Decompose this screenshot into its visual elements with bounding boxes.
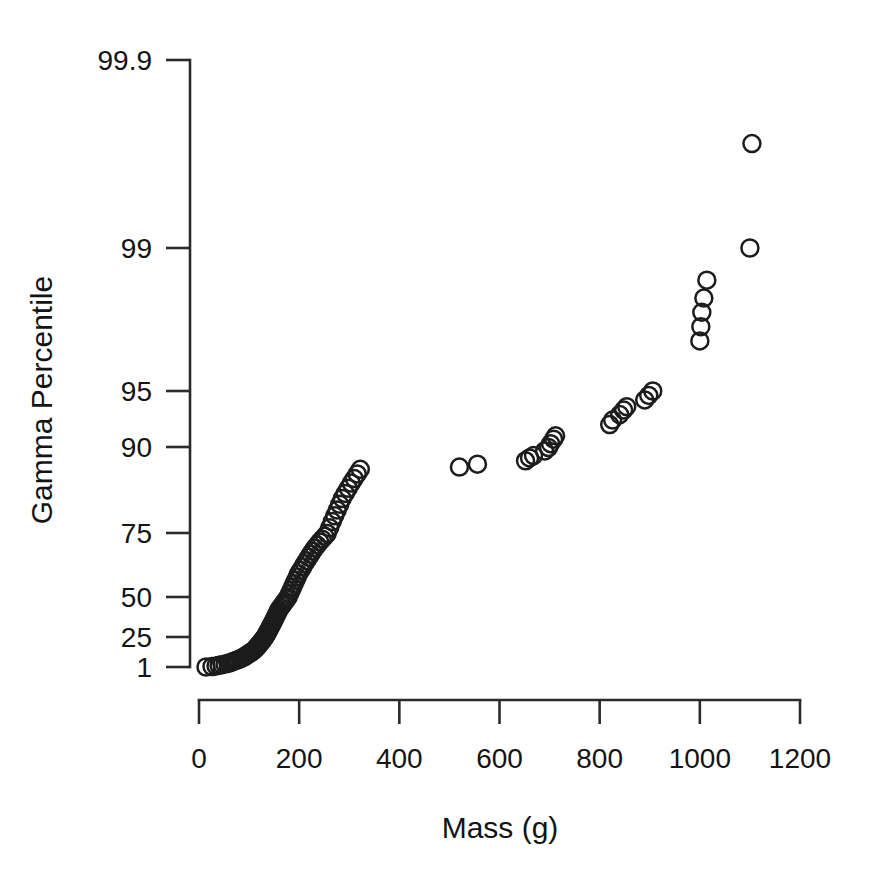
y-axis: 125507590959999.9: [98, 45, 191, 683]
x-axis-tick-label: 600: [476, 743, 523, 774]
y-axis-tick-label: 50: [121, 582, 152, 613]
y-axis-tick-labels: 125507590959999.9: [98, 45, 153, 683]
x-axis-tick-label: 1000: [669, 743, 731, 774]
x-axis: 020040060080010001200: [191, 700, 831, 774]
y-axis-tick-label: 90: [121, 432, 152, 463]
x-axis-tick-label: 800: [576, 743, 623, 774]
data-point-marker: [743, 135, 760, 152]
x-axis-tick-label: 200: [276, 743, 323, 774]
x-axis-tick-label: 400: [376, 743, 423, 774]
data-point-marker: [741, 240, 758, 257]
data-point-marker: [640, 387, 657, 404]
x-axis-tick-label: 0: [191, 743, 207, 774]
data-point-marker: [698, 272, 715, 289]
y-axis-tick-label: 95: [121, 376, 152, 407]
plot-canvas: 125507590959999.9 020040060080010001200 …: [0, 0, 880, 886]
x-axis-tick-labels: 020040060080010001200: [191, 743, 831, 774]
x-axis-ticks: [199, 700, 800, 724]
y-axis-tick-label: 25: [121, 622, 152, 653]
data-point-marker: [451, 459, 468, 476]
x-axis-title: Mass (g): [442, 811, 559, 844]
scatter-data-points: [198, 135, 761, 675]
y-axis-title: Gamma Percentile: [25, 276, 58, 524]
data-point-marker: [469, 456, 486, 473]
y-axis-tick-label: 99.9: [98, 45, 153, 76]
y-axis-tick-label: 99: [121, 233, 152, 264]
gamma-probability-plot-figure: 125507590959999.9 020040060080010001200 …: [0, 0, 880, 886]
y-axis-tick-label: 1: [136, 652, 152, 683]
y-axis-ticks: [166, 60, 190, 667]
x-axis-tick-label: 1200: [769, 743, 831, 774]
y-axis-tick-label: 75: [121, 518, 152, 549]
